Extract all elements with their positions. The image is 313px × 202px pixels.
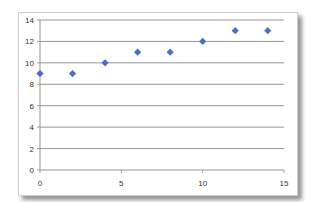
data-point-diamond xyxy=(36,70,43,77)
data-point-diamond xyxy=(134,49,141,56)
data-point-diamond xyxy=(232,27,239,34)
x-tick-label: 0 xyxy=(38,179,43,188)
gridlines xyxy=(40,20,284,149)
x-axis-ticks: 051015 xyxy=(38,170,289,188)
y-tick-label: 14 xyxy=(25,16,34,25)
y-tick-label: 0 xyxy=(30,166,35,175)
y-axis-ticks: 02468101214 xyxy=(25,16,40,175)
y-tick-label: 2 xyxy=(30,145,35,154)
data-point-diamond xyxy=(69,70,76,77)
y-tick-label: 12 xyxy=(25,37,34,46)
scatter-chart: 02468101214 051015 xyxy=(0,0,313,202)
x-tick-label: 15 xyxy=(280,179,289,188)
y-tick-label: 8 xyxy=(30,80,35,89)
data-point-diamond xyxy=(167,49,174,56)
y-tick-label: 4 xyxy=(30,123,35,132)
y-tick-label: 6 xyxy=(30,102,35,111)
x-tick-label: 10 xyxy=(198,179,207,188)
axes xyxy=(40,20,284,170)
data-points xyxy=(36,27,271,77)
x-tick-label: 5 xyxy=(119,179,124,188)
data-point-diamond xyxy=(199,38,206,45)
y-tick-label: 10 xyxy=(25,59,34,68)
data-point-diamond xyxy=(264,27,271,34)
data-point-diamond xyxy=(101,59,108,66)
